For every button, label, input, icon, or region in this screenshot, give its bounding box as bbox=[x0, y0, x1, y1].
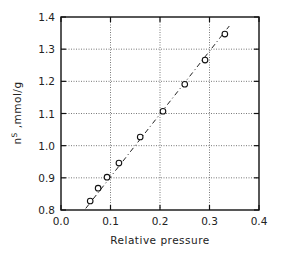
x-tick-label: 0.2 bbox=[152, 215, 169, 227]
x-tick-label: 0.1 bbox=[102, 215, 119, 227]
y-tick-label: 1.3 bbox=[38, 43, 55, 55]
y-axis-label: nS ,mmol/g bbox=[10, 81, 23, 144]
data-point bbox=[116, 160, 122, 166]
data-point bbox=[222, 31, 228, 37]
y-tick-label: 1.2 bbox=[38, 75, 55, 87]
y-tick-label: 1.0 bbox=[38, 140, 55, 152]
y-tick-labels: 0.80.91.01.11.21.31.4 bbox=[38, 11, 55, 216]
chart: 0.00.10.20.30.4 0.80.91.01.11.21.31.4 Re… bbox=[0, 0, 281, 255]
data-point bbox=[160, 108, 166, 114]
data-point bbox=[202, 57, 208, 63]
data-point bbox=[104, 174, 110, 180]
x-tick-label: 0.3 bbox=[201, 215, 218, 227]
fit-line bbox=[86, 26, 230, 208]
data-point bbox=[95, 185, 101, 191]
x-tick-label: 0.0 bbox=[53, 215, 70, 227]
data-point bbox=[182, 81, 188, 87]
x-tick-labels: 0.00.10.20.30.4 bbox=[53, 215, 268, 227]
linear-fit-line bbox=[86, 26, 230, 208]
y-tick-label: 0.8 bbox=[38, 204, 55, 216]
y-tick-label: 1.1 bbox=[38, 108, 55, 120]
x-axis-label: Relative pressure bbox=[110, 234, 210, 246]
y-tick-label: 0.9 bbox=[38, 172, 55, 184]
x-tick-label: 0.4 bbox=[251, 215, 268, 227]
data-point bbox=[87, 198, 93, 204]
data-point bbox=[137, 134, 143, 140]
y-tick-label: 1.4 bbox=[38, 11, 55, 23]
